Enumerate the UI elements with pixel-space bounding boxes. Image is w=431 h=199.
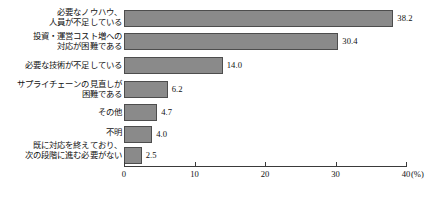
plot-area: 38.2 30.4 14.0 6.2 4.7 4.0 2.5 [124, 0, 406, 166]
bar-value-6: 2.5 [146, 147, 157, 164]
x-tick-20 [265, 162, 266, 166]
bar-value-1: 30.4 [342, 33, 357, 50]
bar-chart: 必要なノウハウ、 人員が不足している 投資・運営コスト増への 対応が困難である … [0, 0, 431, 199]
bar-value-5: 4.0 [156, 126, 167, 143]
category-label-4: その他 [0, 108, 122, 118]
bar-value-2: 14.0 [227, 57, 242, 74]
x-tick-label-20: 20 [261, 169, 270, 180]
bar-4 [124, 104, 157, 121]
x-tick-label-10: 10 [190, 169, 199, 180]
x-tick-label-30: 30 [331, 169, 340, 180]
bar-value-4: 4.7 [161, 104, 172, 121]
category-label-6: 既に対応を終えており、 次の段階に進む必要がない [0, 141, 122, 161]
bar-5 [124, 126, 152, 143]
category-label-0: 必要なノウハウ、 人員が不足している [0, 8, 122, 28]
bar-3 [124, 81, 168, 98]
bar-value-0: 38.2 [397, 10, 412, 27]
x-tick-0 [124, 162, 125, 166]
category-label-3: サプライチェーンの見直しが 困難である [0, 80, 122, 100]
x-tick-label-0: 0 [122, 169, 126, 180]
bar-1 [124, 33, 338, 50]
x-tick-30 [336, 162, 337, 166]
x-tick-40 [406, 162, 407, 166]
bar-value-3: 6.2 [172, 81, 183, 98]
x-axis-line [124, 166, 407, 167]
bar-2 [124, 57, 223, 74]
x-tick-label-40: 40 [402, 169, 411, 180]
category-label-5: 不明 [0, 128, 122, 138]
bar-0 [124, 10, 393, 27]
category-label-2: 必要な技術が不足している [0, 61, 122, 71]
bar-6 [124, 147, 142, 164]
x-axis-unit-label: (%) [411, 169, 424, 180]
category-label-1: 投資・運営コスト増への 対応が困難である [0, 32, 122, 52]
x-tick-10 [195, 162, 196, 166]
